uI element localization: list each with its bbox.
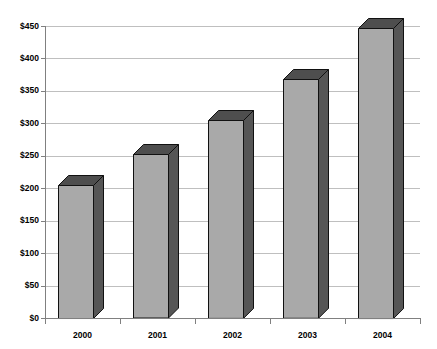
y-axis-label-400: $400 <box>3 54 39 63</box>
y-axis-label-50: $50 <box>3 281 39 290</box>
bar-side-face <box>394 18 404 318</box>
bar-front-face <box>134 155 169 319</box>
y-axis-line <box>45 26 46 319</box>
y-axis-label-250: $250 <box>3 151 39 160</box>
bar-2000[interactable] <box>58 175 103 318</box>
bar-front-face <box>284 80 319 319</box>
x-axis-label-2000: 2000 <box>45 330 120 340</box>
bar-2002[interactable] <box>208 110 253 318</box>
bar-side-face <box>319 70 329 319</box>
bar-2003[interactable] <box>283 69 328 318</box>
bar-chart: $450 $400 $350 $300 $250 $200 $150 $100 … <box>0 0 437 349</box>
x-axis-label-2004: 2004 <box>345 330 420 340</box>
bar-side-face <box>244 111 254 319</box>
plot-area <box>45 26 420 318</box>
bar-2001[interactable] <box>133 144 178 318</box>
bar-front-face <box>209 121 244 319</box>
y-axis-label-300: $300 <box>3 119 39 128</box>
y-axis-label-350: $350 <box>3 86 39 95</box>
x-axis-label-2001: 2001 <box>120 330 195 340</box>
y-axis-label-450: $450 <box>3 22 39 31</box>
y-axis-label-200: $200 <box>3 184 39 193</box>
bar-side-face <box>94 175 104 318</box>
bar-2004[interactable] <box>358 18 403 318</box>
y-axis-label-150: $150 <box>3 216 39 225</box>
bar-front-face <box>59 185 94 318</box>
x-axis-line <box>45 318 421 319</box>
y-axis-label-0: $0 <box>3 314 39 323</box>
x-axis-label-2003: 2003 <box>270 330 345 340</box>
y-axis-label-100: $100 <box>3 249 39 258</box>
y-axis-labels: $450 $400 $350 $300 $250 $200 $150 $100 … <box>0 0 39 349</box>
x-axis-label-2002: 2002 <box>195 330 270 340</box>
bar-front-face <box>359 28 394 318</box>
bar-side-face <box>169 145 179 319</box>
